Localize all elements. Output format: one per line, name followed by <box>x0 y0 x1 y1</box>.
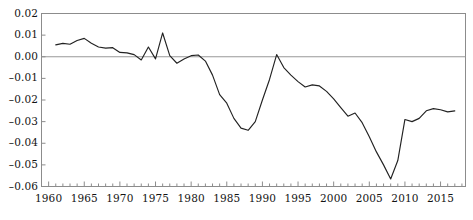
y-axis-tick-label: –0.02 <box>0 93 38 105</box>
y-axis-tick-label: 0.00 <box>0 50 38 62</box>
x-axis-tick-label: 1990 <box>242 192 282 204</box>
x-axis-tick-label: 2015 <box>421 192 461 204</box>
y-axis-tick-label: –0.04 <box>0 136 38 148</box>
x-axis-tick-label: 1980 <box>171 192 211 204</box>
x-axis-tick-label: 1985 <box>207 192 247 204</box>
x-axis-tick-label: 1975 <box>136 192 176 204</box>
x-axis-tick-label: 1965 <box>64 192 104 204</box>
x-axis-tick-label: 2000 <box>314 192 354 204</box>
line-chart: 0.020.010.00–0.01–0.02–0.03–0.04–0.05–0.… <box>0 0 473 220</box>
x-axis-tick-label: 2005 <box>349 192 389 204</box>
data-series-line <box>56 33 455 179</box>
x-axis-tick-label: 1995 <box>278 192 318 204</box>
y-axis-tick-label: 0.01 <box>0 28 38 40</box>
y-axis-tick-label: –0.06 <box>0 180 38 192</box>
y-axis-tick-label: –0.05 <box>0 158 38 170</box>
y-axis-tick-label: 0.02 <box>0 7 38 19</box>
plot-frame <box>42 14 466 187</box>
chart-plot-area <box>0 0 473 220</box>
y-axis-tick-label: –0.01 <box>0 71 38 83</box>
y-axis-tick-label: –0.03 <box>0 115 38 127</box>
x-axis-tick-label: 1960 <box>29 192 69 204</box>
x-axis-tick-label: 1970 <box>100 192 140 204</box>
x-axis-tick-label: 2010 <box>385 192 425 204</box>
